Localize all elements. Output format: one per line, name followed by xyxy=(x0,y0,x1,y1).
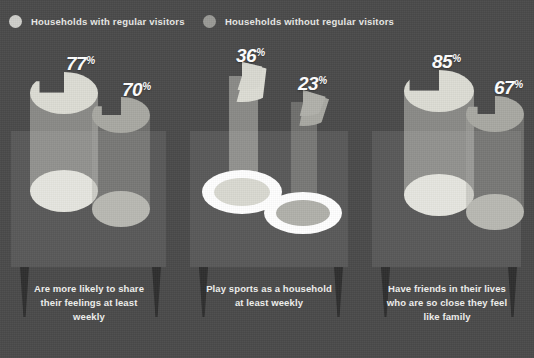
pie-top-icon xyxy=(466,96,524,132)
cylinder-without-visitors xyxy=(466,96,524,230)
chart-group: 77% 70% xyxy=(0,0,178,270)
group-caption: Are more likely to share their feelings … xyxy=(24,282,154,323)
value-label: 23% xyxy=(298,74,327,93)
group-caption: Have friends in their lives who are so c… xyxy=(384,282,510,323)
value-label: 77% xyxy=(66,54,95,73)
value-label: 36% xyxy=(236,46,265,65)
cylinder-with-visitors xyxy=(208,62,276,210)
group-caption: Play sports as a household at least week… xyxy=(203,282,335,310)
cylinder-with-visitors xyxy=(404,70,474,216)
cylinder-without-visitors xyxy=(92,97,150,227)
chart-group: 36% 23% xyxy=(178,0,356,270)
cylinder-with-visitors xyxy=(30,72,98,212)
pie-top-icon xyxy=(404,70,474,112)
value-label: 70% xyxy=(122,80,151,99)
pie-top-icon xyxy=(92,97,150,133)
pie-top-icon xyxy=(30,72,98,114)
value-label: 85% xyxy=(432,52,461,71)
chart-group: 85% 67% xyxy=(356,0,534,270)
cylinder-without-visitors xyxy=(272,90,334,230)
value-label: 67% xyxy=(494,78,523,97)
